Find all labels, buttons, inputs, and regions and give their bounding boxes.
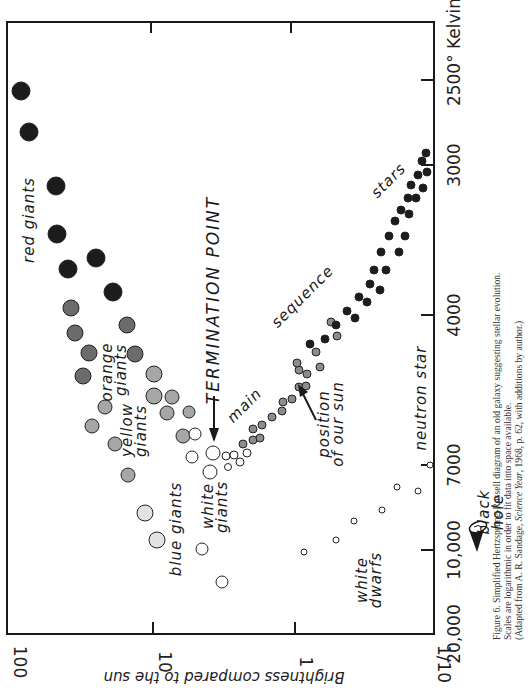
star-point (59, 260, 77, 278)
figure-caption: Figure 6. Simplified Hertzsprung-Russell… (491, 273, 525, 640)
star-point (12, 82, 30, 100)
star-point (351, 314, 359, 322)
star-point (343, 307, 351, 315)
caption-line-1: Figure 6. Simplified Hertzsprung-Russell… (491, 273, 502, 640)
star-point (225, 464, 232, 471)
star-point (48, 225, 66, 243)
star-point (189, 428, 201, 440)
star-point (385, 232, 393, 240)
star-point (422, 149, 430, 157)
star-point (160, 406, 174, 420)
y-tick-labels: 20,000 10,000 7000 4000 3000 2500° Kelvi… (444, 0, 464, 664)
star-point (288, 395, 296, 403)
x-tick-100: 100 (10, 646, 30, 678)
star-point (377, 248, 385, 256)
star-point (203, 465, 217, 479)
star-point (146, 366, 162, 382)
star-point (312, 348, 320, 356)
star-point (186, 451, 198, 463)
star-point (63, 300, 79, 316)
star-point (279, 398, 287, 406)
star-point (104, 283, 122, 301)
star-point (332, 321, 340, 329)
star-point (67, 325, 83, 341)
star-point (278, 407, 286, 415)
caption-line-3: (Adapted from A. R. Sandage, Science Yea… (513, 321, 525, 640)
star-point (119, 317, 135, 333)
star-point (87, 249, 105, 267)
label-yellow-giants: giants (132, 405, 150, 457)
star-point (423, 168, 431, 176)
star-point (249, 425, 257, 433)
y-tick-2500-kelvin: 2500° Kelvin (444, 0, 464, 106)
star-point (391, 217, 399, 225)
label-termination-point: TERMINATION POINT (203, 196, 223, 404)
label-red-giants: red giants (20, 177, 38, 263)
star-point (306, 340, 314, 348)
star-point (243, 449, 251, 457)
star-point (379, 507, 385, 513)
x-axis-label: Brightness compared to the sun (103, 668, 344, 686)
star-point (75, 368, 91, 384)
star-point (404, 194, 412, 202)
star-point (303, 370, 311, 378)
y-tick-7000: 7000 (444, 443, 464, 486)
star-point (268, 413, 276, 421)
caption-line-2: Scales are logarithmic in order to fit d… (502, 403, 513, 640)
star-point (401, 232, 409, 240)
star-point (230, 451, 238, 459)
star-point (397, 206, 405, 214)
star-point (20, 123, 38, 141)
star-point (149, 532, 165, 548)
y-tick-10000: 10,000 (444, 520, 464, 579)
series-main-sequence-hot-small- (222, 449, 251, 471)
star-point (407, 181, 415, 189)
star-point (333, 332, 341, 340)
star-point (366, 280, 374, 288)
star-point (216, 576, 228, 588)
x-tick-1: 1 (296, 657, 316, 668)
star-point (121, 468, 135, 482)
star-point (418, 157, 426, 165)
star-point (427, 462, 433, 468)
series-blue-giants (137, 505, 165, 548)
star-point (370, 266, 378, 274)
star-point (85, 419, 99, 433)
star-point (321, 335, 329, 343)
star-point (81, 345, 97, 361)
star-point (316, 363, 324, 371)
star-point (137, 505, 153, 521)
star-point (376, 286, 384, 294)
star-point (196, 543, 208, 555)
star-point (394, 484, 400, 490)
label-stars: stars (367, 159, 409, 201)
star-point (412, 194, 420, 202)
series-white-dwarfs (301, 462, 433, 555)
star-point (258, 421, 266, 429)
series-main-sequence-cool- (306, 149, 431, 348)
y-tick-20000: 20,000 (444, 604, 464, 663)
star-point (355, 293, 363, 301)
star-point (176, 429, 190, 443)
y-tick-4000: 4000 (444, 293, 464, 336)
star-point (382, 266, 390, 274)
hr-diagram: 100 10 1 1/10 Brightness compared to the… (0, 0, 528, 692)
label-orange-giants: giants (112, 344, 130, 396)
star-point (146, 388, 162, 404)
label-white-giants: giants (213, 481, 231, 533)
star-point (363, 298, 371, 306)
label-white-dwarfs-2: dwarfs (367, 552, 385, 608)
star-point (333, 537, 339, 543)
star-point (222, 452, 230, 460)
star-point (236, 458, 244, 466)
y-tick-3000: 3000 (444, 143, 464, 186)
star-point (206, 446, 220, 460)
label-neutron-star: neutron star (412, 346, 430, 451)
star-point (395, 248, 403, 256)
star-point (293, 359, 301, 367)
label-main: main (223, 384, 265, 426)
star-point (351, 518, 357, 524)
star-point (239, 440, 247, 448)
star-point (183, 406, 195, 418)
star-point (301, 549, 307, 555)
